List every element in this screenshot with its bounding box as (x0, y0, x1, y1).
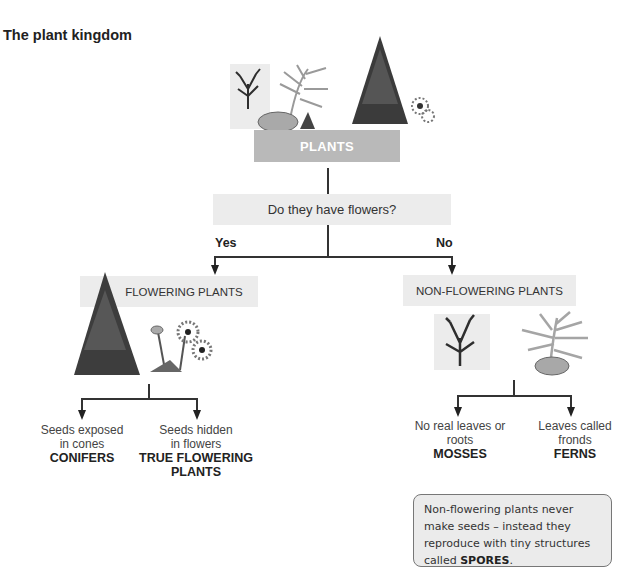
leaf-name: MOSSES (405, 447, 515, 461)
connector-question (327, 225, 329, 258)
flower-icon (150, 322, 211, 372)
connector-conifers (81, 398, 83, 410)
small-plant-icon (300, 112, 315, 129)
spores-note: Non-flowering plants never make seeds – … (413, 494, 612, 567)
connector-true-flowering (196, 398, 198, 410)
leaf-name: TRUE FLOWERING (136, 451, 256, 465)
note-emphasis: SPORES (460, 554, 509, 567)
conifer-and-flowers-illustration (70, 270, 220, 380)
leaf-true-flowering-plants: Seeds hidden in flowers TRUE FLOWERING P… (136, 423, 256, 479)
leaf-description: No real leaves or (405, 419, 515, 433)
yes-label: Yes (215, 236, 237, 250)
rock-icon (258, 112, 298, 132)
root-node-plants: PLANTS (254, 130, 400, 162)
leaf-conifers: Seeds exposed in cones CONIFERS (32, 423, 132, 465)
leaf-description: in flowers (136, 437, 256, 451)
note-end: . (509, 554, 513, 567)
no-label: No (436, 236, 453, 250)
connector-flowering-branch (81, 398, 198, 400)
fern-icon (280, 65, 328, 119)
leaf-description: Seeds exposed (32, 423, 132, 437)
arrow-no-icon (448, 265, 456, 275)
non-flowering-plants-node: NON-FLOWERING PLANTS (403, 275, 576, 306)
leaf-description: Seeds hidden (136, 423, 256, 437)
arrow-mosses-icon (454, 407, 462, 417)
leaf-name: FERNS (530, 447, 620, 461)
connector-branch (214, 256, 453, 258)
leaf-mosses: No real leaves or roots MOSSES (405, 419, 515, 461)
leaf-ferns: Leaves called fronds FERNS (530, 419, 620, 461)
connector-root (327, 168, 329, 194)
page-title: The plant kingdom (3, 27, 132, 43)
flower-icon (412, 98, 434, 122)
arrow-ferns-icon (567, 407, 575, 417)
leaf-name-continued: PLANTS (136, 465, 256, 479)
leaf-description: in cones (32, 437, 132, 451)
rock-icon (535, 357, 569, 375)
leaf-name: CONIFERS (32, 451, 132, 465)
leaf-description: roots (405, 433, 515, 447)
question-node: Do they have flowers? (213, 194, 451, 225)
leaf-description: fronds (530, 433, 620, 447)
connector-ferns (570, 395, 572, 407)
leaf-description: Leaves called (530, 419, 620, 433)
connector-non-flowering-branch (457, 395, 572, 397)
arrow-conifers-icon (78, 410, 86, 420)
connector-mosses (457, 395, 459, 407)
moss-and-fern-illustration (432, 308, 602, 378)
plants-illustration (230, 34, 435, 134)
arrow-true-flowering-icon (193, 410, 201, 420)
